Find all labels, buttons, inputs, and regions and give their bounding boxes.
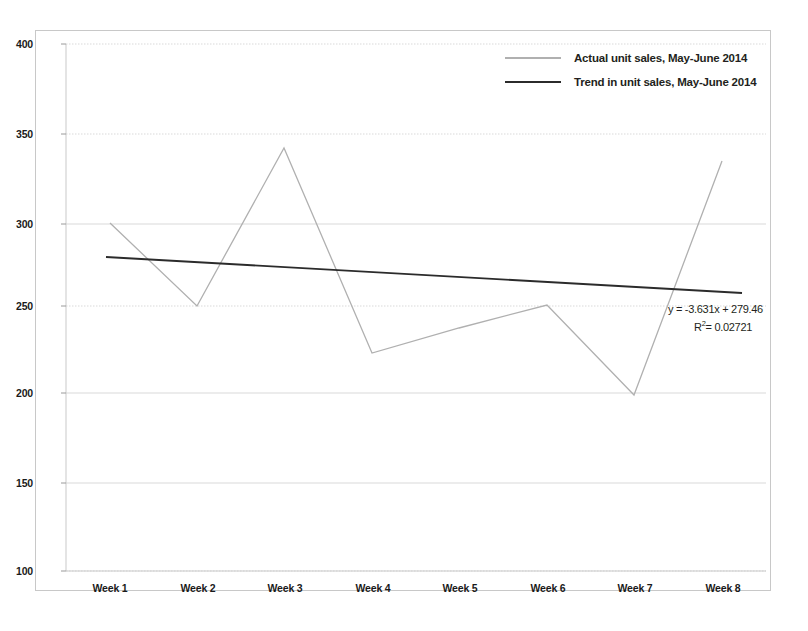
series-trendline: [106, 257, 742, 293]
x-axis-label-week-7: Week 7: [591, 582, 679, 594]
chart-legend: Actual unit sales, May-June 2014 Trend i…: [505, 46, 765, 94]
x-axis-label-week-5: Week 5: [416, 582, 504, 594]
legend-swatch-actual: [505, 57, 561, 59]
legend-swatch-trend: [505, 81, 561, 83]
y-axis-label-350: 350: [0, 128, 33, 140]
trendline-equation-text: y = -3.631x + 279.46: [668, 303, 763, 315]
trendline-equation-annotation: y = -3.631x + 279.46 R2= 0.02721: [668, 303, 763, 333]
chart-frame: 400 350 300 250 200 150 100 Week 1 Week …: [35, 30, 771, 591]
series-actual-unit-sales: [110, 148, 722, 395]
legend-label-actual: Actual unit sales, May-June 2014: [574, 52, 747, 64]
y-axis-label-100: 100: [0, 565, 33, 577]
y-axis-label-150: 150: [0, 477, 33, 489]
legend-item-trend: Trend in unit sales, May-June 2014: [505, 70, 765, 94]
r-squared-symbol: R: [694, 321, 702, 333]
x-axis-label-week-3: Week 3: [241, 582, 329, 594]
chart-container: 400 350 300 250 200 150 100 Week 1 Week …: [0, 0, 808, 631]
y-axis-ticks: [61, 44, 66, 571]
x-axis-label-week-8: Week 8: [679, 582, 767, 594]
legend-item-actual: Actual unit sales, May-June 2014: [505, 46, 765, 70]
legend-label-trend: Trend in unit sales, May-June 2014: [574, 76, 756, 88]
chart-plot-area: [36, 31, 770, 590]
y-axis-label-400: 400: [0, 38, 33, 50]
r-squared-text: R2= 0.02721: [694, 319, 763, 333]
x-axis-label-week-1: Week 1: [66, 582, 154, 594]
x-axis-label-week-4: Week 4: [329, 582, 417, 594]
axis-lines: [66, 44, 766, 571]
x-axis-label-week-2: Week 2: [154, 582, 242, 594]
y-axis-label-200: 200: [0, 387, 33, 399]
x-axis-label-week-6: Week 6: [504, 582, 592, 594]
y-axis-label-250: 250: [0, 300, 33, 312]
y-axis-label-300: 300: [0, 218, 33, 230]
gridlines-horizontal: [66, 44, 766, 571]
r-squared-value: = 0.02721: [706, 321, 753, 333]
